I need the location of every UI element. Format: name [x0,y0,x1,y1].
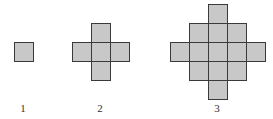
square-cell [72,42,92,62]
square-cell [246,42,266,62]
square-cell [208,61,228,81]
square-cell [227,42,247,62]
square-cell [14,42,34,62]
square-cell [227,61,247,81]
square-cell [208,42,228,62]
square-cell [189,42,209,62]
square-cell [208,4,228,24]
square-cell [227,23,247,43]
figure-label: 1 [20,103,26,114]
square-cell [189,23,209,43]
square-cell [91,23,111,43]
square-cell [91,42,111,62]
square-cell [208,80,228,100]
square-cell [91,61,111,81]
figure-label: 3 [214,103,220,114]
square-cell [110,42,130,62]
figure-label: 2 [97,103,103,114]
square-cell [208,23,228,43]
square-cell [189,61,209,81]
square-cell [170,42,190,62]
